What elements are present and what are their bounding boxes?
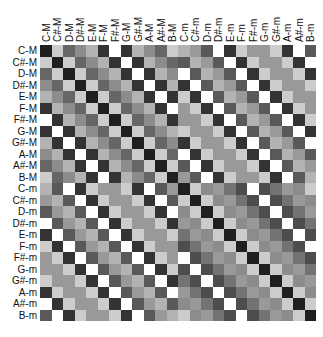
heatmap-cell (144, 229, 156, 241)
heatmap-cell (121, 275, 133, 287)
heatmap-cell (236, 310, 248, 322)
heatmap-cell (132, 172, 144, 184)
heatmap-cell (178, 91, 190, 103)
heatmap-cell (305, 68, 317, 80)
heatmap-cell (75, 287, 87, 299)
x-tick-label: F-M (98, 24, 109, 42)
heatmap-cell (178, 68, 190, 80)
heatmap-cell (121, 229, 133, 241)
heatmap-cell (121, 57, 133, 69)
heatmap-cell (167, 45, 179, 57)
heatmap-cell (201, 68, 213, 80)
heatmap-cell (236, 149, 248, 161)
heatmap-cell (293, 149, 305, 161)
heatmap-cell (201, 298, 213, 310)
heatmap-cell (155, 298, 167, 310)
heatmap-cell (247, 103, 259, 115)
heatmap-cell (201, 103, 213, 115)
heatmap-cell (144, 183, 156, 195)
heatmap-cell (52, 149, 64, 161)
heatmap-cell (155, 160, 167, 172)
heatmap-cell (270, 57, 282, 69)
heatmap-cell (236, 252, 248, 264)
heatmap-cell (236, 103, 248, 115)
heatmap-cell (213, 126, 225, 138)
heatmap-cell (259, 275, 271, 287)
heatmap-cell (282, 137, 294, 149)
heatmap-cell (178, 264, 190, 276)
heatmap-cell (259, 149, 271, 161)
heatmap-cell (305, 241, 317, 253)
heatmap-cell (270, 287, 282, 299)
heatmap-cell (86, 287, 98, 299)
heatmap-cell (305, 218, 317, 230)
heatmap-cell (109, 218, 121, 230)
heatmap-cell (224, 264, 236, 276)
heatmap-cell (98, 160, 110, 172)
heatmap-cell (213, 183, 225, 195)
heatmap-cell (190, 287, 202, 299)
heatmap-cell (144, 218, 156, 230)
x-tick-label: E-m (225, 24, 236, 42)
heatmap-cell (98, 252, 110, 264)
heatmap-cell (121, 45, 133, 57)
heatmap-cell (282, 114, 294, 126)
x-tick-label: C-m (179, 23, 190, 42)
heatmap-cell (190, 57, 202, 69)
heatmap-cell (305, 206, 317, 218)
heatmap-cell (132, 264, 144, 276)
heatmap-cell (132, 91, 144, 103)
heatmap-cell (155, 68, 167, 80)
heatmap-cell (224, 275, 236, 287)
heatmap-cell (178, 229, 190, 241)
heatmap-cell (178, 172, 190, 184)
heatmap-cell (190, 126, 202, 138)
heatmap-cell (155, 137, 167, 149)
heatmap-cell (247, 172, 259, 184)
heatmap-cell (178, 80, 190, 92)
heatmap-cell (40, 126, 52, 138)
heatmap-cell (121, 206, 133, 218)
heatmap-cell (40, 183, 52, 195)
heatmap-cell (201, 229, 213, 241)
heatmap-cell (201, 206, 213, 218)
heatmap-cell (75, 298, 87, 310)
heatmap-cell (98, 45, 110, 57)
y-tick-label: A#-m (0, 298, 37, 310)
heatmap-cell (259, 195, 271, 207)
heatmap-cell (63, 114, 75, 126)
heatmap-cell (213, 252, 225, 264)
heatmap-cell (190, 149, 202, 161)
heatmap-cell (40, 103, 52, 115)
heatmap-cell (109, 206, 121, 218)
heatmap-cell (178, 275, 190, 287)
heatmap-cell (270, 137, 282, 149)
heatmap-cell (247, 57, 259, 69)
x-tick-label: A#-m (294, 18, 305, 42)
heatmap-cell (144, 287, 156, 299)
x-tick-label: D#-M (75, 18, 86, 42)
heatmap-cell (282, 103, 294, 115)
heatmap-cell (236, 126, 248, 138)
heatmap-cell (167, 183, 179, 195)
heatmap-cell (213, 149, 225, 161)
x-tick-label: E-M (87, 24, 98, 42)
heatmap-cell (201, 275, 213, 287)
heatmap-cell (167, 149, 179, 161)
heatmap-cell (178, 218, 190, 230)
heatmap-cell (190, 218, 202, 230)
heatmap-cell (98, 68, 110, 80)
heatmap-cell (247, 252, 259, 264)
heatmap-cell (224, 137, 236, 149)
heatmap-cell (86, 206, 98, 218)
heatmap-cell (270, 218, 282, 230)
heatmap-cell (86, 91, 98, 103)
heatmap-cell (132, 57, 144, 69)
heatmap-cell (52, 298, 64, 310)
heatmap-cell (86, 241, 98, 253)
heatmap-cell (167, 114, 179, 126)
heatmap-cell (293, 275, 305, 287)
heatmap-cell (86, 264, 98, 276)
heatmap-cell (109, 195, 121, 207)
heatmap-cell (132, 45, 144, 57)
